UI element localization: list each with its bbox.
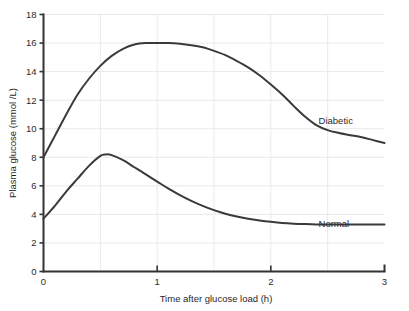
chart-canvas: 024681012141618 0123 DiabeticNormal Plas… (0, 0, 409, 311)
y-tick-label: 8 (31, 152, 36, 163)
x-tick-label: 2 (268, 276, 273, 287)
y-tick-label: 14 (26, 66, 37, 77)
x-axis-title: Time after glucose load (h) (160, 293, 273, 304)
y-tick-label: 10 (26, 123, 37, 134)
x-tick-label: 3 (382, 276, 387, 287)
y-tick-label: 0 (31, 266, 36, 277)
y-tick-label: 2 (31, 237, 36, 248)
series-label-normal: Normal (319, 218, 350, 229)
y-tick-label: 18 (26, 9, 37, 20)
y-tick-label: 16 (26, 37, 37, 48)
y-tick-label: 6 (31, 180, 36, 191)
x-axis-tick-labels: 0123 (41, 276, 387, 287)
y-tick-label: 12 (26, 95, 37, 106)
y-axis-tick-labels: 024681012141618 (26, 9, 37, 277)
series-label-diabetic: Diabetic (319, 115, 354, 126)
x-tick-label: 1 (155, 276, 160, 287)
y-axis-title: Plasma glucose (mmol /L) (7, 88, 18, 198)
x-tick-label: 0 (41, 276, 46, 287)
y-tick-label: 4 (31, 209, 36, 220)
glucose-tolerance-chart: 024681012141618 0123 DiabeticNormal Plas… (0, 0, 409, 311)
